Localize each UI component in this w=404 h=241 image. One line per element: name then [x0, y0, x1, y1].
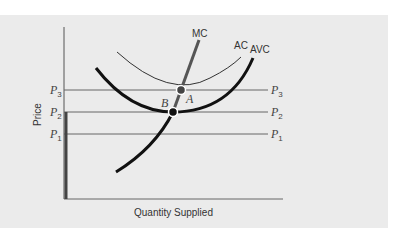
p3-left-label: P3	[49, 83, 62, 99]
p1-left-label: P1	[49, 127, 62, 143]
ac-label: AC	[234, 40, 248, 51]
p2-left-label: P2	[49, 105, 62, 121]
x-axis-title: Quantity Supplied	[134, 207, 213, 218]
y-axis-title: Price	[32, 103, 43, 126]
mc-label: MC	[192, 28, 208, 39]
point-a	[177, 86, 186, 95]
p1-right-label: P1	[270, 127, 283, 143]
p3-right-label: P3	[270, 83, 283, 99]
point-b-label: B	[161, 96, 169, 110]
avc-label: AVC	[250, 44, 270, 55]
point-b	[169, 108, 178, 117]
cost-curves-diagram: MC AC AVC A B P3 P2 P1 P3 P2 P1 Price Qu…	[0, 0, 404, 241]
mc-curve-lower	[116, 112, 173, 172]
p2-right-label: P2	[270, 105, 283, 121]
point-a-label: A	[185, 92, 194, 106]
ac-curve	[117, 52, 241, 85]
